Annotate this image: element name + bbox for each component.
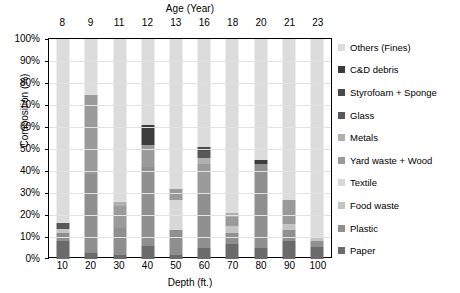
legend-item[interactable]: Metals — [338, 126, 460, 149]
bar-segment[interactable] — [57, 39, 70, 223]
stacked-bar[interactable] — [282, 39, 295, 257]
bar-segment[interactable] — [169, 189, 182, 200]
age-tick-label: 21 — [275, 17, 303, 30]
y-tick-label: 100% — [14, 33, 40, 44]
stacked-bar[interactable] — [254, 39, 267, 257]
stacked-bar[interactable] — [198, 39, 211, 257]
legend-item-label: Yard waste + Wood — [350, 155, 432, 166]
legend-swatch-icon — [338, 66, 345, 73]
gridline — [49, 61, 331, 62]
legend-item-label: Food waste — [350, 200, 399, 211]
stacked-bar[interactable] — [169, 39, 182, 257]
bar-segment[interactable] — [113, 255, 126, 259]
top-axis-title: Age (Year) — [40, 3, 340, 14]
bar-segment[interactable] — [141, 246, 154, 259]
depth-tick-label: 40 — [133, 260, 161, 273]
y-tick-label: 40% — [20, 165, 40, 176]
bar-segment[interactable] — [85, 39, 98, 95]
bar-segment[interactable] — [57, 241, 70, 259]
y-tick-label: 50% — [20, 143, 40, 154]
bar-slot — [190, 39, 218, 257]
bar-segment[interactable] — [198, 193, 211, 248]
bar-segment[interactable] — [113, 39, 126, 202]
bar-segment[interactable] — [254, 248, 267, 259]
bar-segment[interactable] — [310, 247, 323, 259]
bar-segment[interactable] — [254, 39, 267, 160]
y-tick-label: 30% — [20, 187, 40, 198]
y-tick-mark — [45, 39, 49, 40]
stacked-bar[interactable] — [85, 39, 98, 257]
bar-slot — [162, 39, 190, 257]
depth-tick-label: 30 — [105, 260, 133, 273]
bar-segment[interactable] — [226, 217, 239, 226]
bar-segment[interactable] — [85, 253, 98, 259]
legend-item[interactable]: Glass — [338, 104, 460, 127]
bar-segment[interactable] — [226, 244, 239, 259]
legend-swatch-icon — [338, 134, 345, 141]
bar-segment[interactable] — [226, 233, 239, 244]
bar-slot — [134, 39, 162, 257]
bar-segment[interactable] — [282, 200, 295, 224]
legend-item[interactable]: Others (Fines) — [338, 36, 460, 59]
legend-item-label: Paper — [350, 245, 375, 256]
age-tick-label: 12 — [133, 17, 161, 30]
bar-segment[interactable] — [198, 151, 211, 158]
bar-slot — [77, 39, 105, 257]
gridline — [49, 149, 331, 150]
bar-segment[interactable] — [85, 174, 98, 253]
bar-segment[interactable] — [226, 39, 239, 213]
stacked-bar[interactable] — [226, 39, 239, 257]
bar-segment[interactable] — [57, 223, 70, 230]
bar-segment[interactable] — [310, 39, 323, 238]
depth-tick-label: 60 — [190, 260, 218, 273]
depth-tick-label: 80 — [247, 260, 275, 273]
legend-item[interactable]: Food waste — [338, 194, 460, 217]
legend-item[interactable]: Textile — [338, 172, 460, 195]
bar-segment[interactable] — [141, 145, 154, 167]
stacked-bar[interactable] — [310, 39, 323, 257]
bar-segment[interactable] — [169, 230, 182, 254]
y-tick-mark — [45, 258, 49, 259]
y-tick-label: 80% — [20, 77, 40, 88]
depth-tick-label: 100 — [304, 260, 332, 273]
bar-segment[interactable] — [282, 230, 295, 241]
bar-slot — [218, 39, 246, 257]
gridline — [49, 83, 331, 84]
bar-segment[interactable] — [198, 39, 211, 147]
depth-tick-label: 20 — [76, 260, 104, 273]
bar-segment[interactable] — [169, 255, 182, 259]
bar-segment[interactable] — [113, 206, 126, 228]
bar-segment[interactable] — [198, 248, 211, 259]
y-tick-label: 60% — [20, 121, 40, 132]
legend-item[interactable]: Paper — [338, 239, 460, 262]
bar-segment[interactable] — [198, 164, 211, 193]
age-tick-label: 18 — [218, 17, 246, 30]
legend-item[interactable]: Yard waste + Wood — [338, 149, 460, 172]
legend-swatch-icon — [338, 179, 345, 186]
y-tick-label: 10% — [20, 231, 40, 242]
bar-segment[interactable] — [226, 226, 239, 233]
bar-segment[interactable] — [282, 224, 295, 231]
stacked-bar[interactable] — [113, 39, 126, 257]
top-axis-tick-labels: 891112131618202123 — [48, 17, 332, 30]
legend-item[interactable]: Styrofoam + Sponge — [338, 81, 460, 104]
legend-item[interactable]: Plastic — [338, 217, 460, 240]
chart-figure: Age (Year) 891112131618202123 Compositio… — [0, 0, 460, 293]
bar-segment[interactable] — [198, 158, 211, 165]
bar-segment[interactable] — [254, 164, 267, 248]
bar-segment[interactable] — [282, 241, 295, 259]
gridline — [49, 237, 331, 238]
stacked-bar[interactable] — [141, 39, 154, 257]
age-tick-label: 23 — [304, 17, 332, 30]
bottom-axis-tick-labels: 102030405060708090100 — [48, 260, 332, 273]
bar-segment[interactable] — [141, 39, 154, 125]
legend-item[interactable]: C&D debris — [338, 59, 460, 82]
stacked-bar[interactable] — [57, 39, 70, 257]
bar-segment[interactable] — [113, 228, 126, 254]
bar-segment[interactable] — [141, 167, 154, 246]
age-tick-label: 11 — [105, 17, 133, 30]
y-tick-label: 70% — [20, 99, 40, 110]
bar-segment[interactable] — [282, 39, 295, 200]
bar-segment[interactable] — [85, 95, 98, 174]
age-tick-label: 20 — [247, 17, 275, 30]
